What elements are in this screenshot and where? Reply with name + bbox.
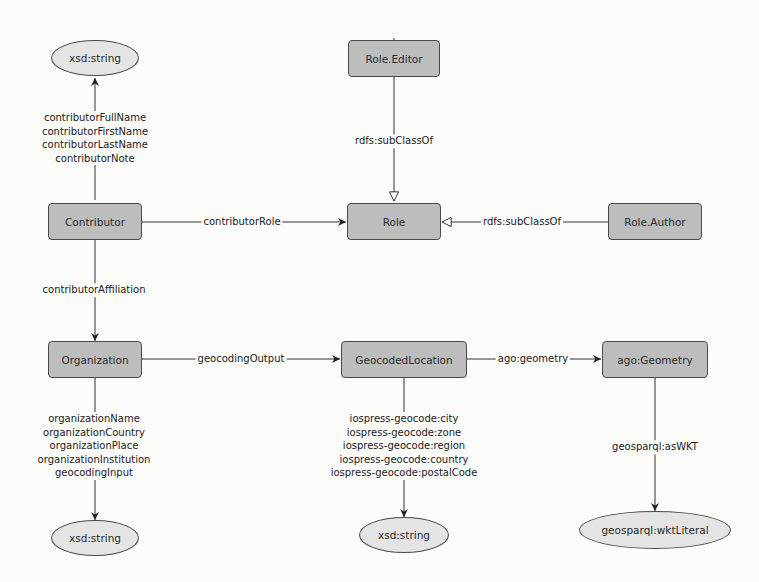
node-xsd-string-mid: xsd:string (359, 517, 449, 553)
label-contributor-role: contributorRole (201, 215, 282, 229)
label-ago-geometry: ago:geometry (496, 352, 570, 366)
node-ago-geometry: ago:Geometry (602, 341, 708, 378)
node-role: Role (347, 203, 441, 240)
node-organization: Organization (48, 341, 142, 378)
label-author-subclass: rdfs:subClassOf (481, 215, 563, 229)
label-contributor-props: contributorFullName contributorFirstName… (42, 111, 148, 165)
label-editor-subclass: rdfs:subClassOf (353, 134, 435, 148)
node-xsd-string-left: xsd:string (51, 520, 139, 556)
node-role-author: Role.Author (608, 203, 702, 240)
node-wkt-literal: geosparql:wktLiteral (579, 511, 731, 549)
label-contributor-affiliation: contributorAffiliation (41, 283, 148, 297)
label-geocoding-output: geocodingOutput (196, 352, 287, 366)
node-geocoded-location: GeocodedLocation (341, 341, 467, 378)
label-organization-props: organizationName organizationCountry org… (38, 412, 151, 480)
node-contributor: Contributor (48, 203, 142, 240)
ontology-diagram: xsd:string Role.Editor Contributor Role … (0, 0, 759, 582)
label-location-props: iospress-geocode:city iospress-geocode:z… (331, 412, 478, 480)
label-as-wkt: geosparql:asWKT (610, 440, 700, 454)
node-xsd-string-top: xsd:string (51, 40, 139, 76)
node-role-editor: Role.Editor (348, 40, 440, 77)
